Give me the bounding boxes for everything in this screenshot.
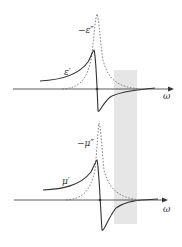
mu-real-label: μ′: [62, 176, 70, 186]
mu-real-curve: [43, 160, 158, 230]
permittivity-panel: −ε″ ε′ ω: [13, 14, 174, 111]
resonance-marker: [99, 199, 102, 202]
epsilon-real-label: ε′: [64, 67, 71, 77]
resonance-marker: [96, 88, 99, 91]
omega-label-bottom: ω: [163, 204, 171, 214]
mu-imag-label: −μ″: [77, 138, 94, 148]
permeability-panel: −μ″ μ′ ω: [14, 123, 171, 230]
epsilon-real-curve: [40, 50, 155, 111]
axis-arrow-icon: [162, 198, 168, 203]
resonance-diagram: −ε″ ε′ ω −μ″ μ′ ω: [0, 0, 182, 247]
omega-label-top: ω: [163, 91, 171, 101]
epsilon-imag-label: −ε″: [78, 25, 94, 35]
